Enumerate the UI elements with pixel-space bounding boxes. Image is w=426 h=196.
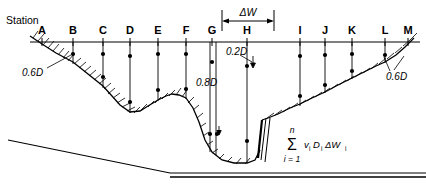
callout-leader-lines — [47, 55, 404, 71]
station-label-D: D — [126, 24, 134, 36]
ground-baseline — [8, 140, 426, 177]
dw-arrow-right — [267, 19, 274, 24]
meter-point-H-02D — [245, 64, 249, 68]
station-label-L: L — [382, 24, 389, 36]
meter-point-I-02D — [298, 54, 302, 58]
meter-point-C-02D — [101, 52, 105, 56]
formula-depth-subscript: i — [321, 145, 322, 152]
meter-point-K-02D — [350, 52, 354, 56]
station-label-K: K — [348, 24, 356, 36]
meter-point-E-08D — [156, 88, 160, 92]
meter-point-I-08D — [298, 94, 302, 98]
depth-label-08d: 0.8D — [196, 77, 217, 88]
dw-arrow-left — [222, 19, 229, 24]
station-label-C: C — [99, 24, 107, 36]
station-label-B: B — [69, 24, 77, 36]
meter-point-G-02D — [210, 60, 214, 64]
scour-bank-lines — [258, 118, 270, 162]
station-label-H: H — [243, 24, 251, 36]
meter-point-J-08D — [323, 83, 327, 87]
depth-label-left-06d: 0.6D — [22, 67, 43, 78]
meter-point-F-02D — [184, 52, 188, 56]
station-label-J: J — [322, 24, 328, 36]
meter-point-E-02D — [156, 52, 160, 56]
leader-right-06D-b — [394, 56, 404, 70]
bed-hachure-marks — [33, 31, 417, 164]
station-label-E: E — [154, 24, 161, 36]
formula-lower-limit: i = 1 — [284, 154, 301, 164]
meter-point-D-02D — [128, 54, 132, 58]
meter-point-C-08D — [101, 75, 105, 79]
stream-cross-section-figure: Station A B C D E F G H I J K L M ΔW 0.6… — [0, 0, 426, 196]
meter-point-J-02D — [323, 53, 327, 57]
leader-left-06D — [47, 55, 71, 68]
width-increment-label: ΔW — [239, 6, 258, 18]
meter-point-L-06D — [383, 53, 387, 57]
discharge-summation-formula: n Σ i = 1 v i D i ΔW i — [284, 125, 347, 164]
station-axis-label: Station — [6, 14, 39, 26]
depth-arrow-indicators — [217, 56, 256, 135]
station-label-F: F — [183, 24, 190, 36]
formula-width-term: ΔW — [324, 139, 341, 150]
station-label-A: A — [38, 24, 46, 36]
meter-point-K-08D — [350, 69, 354, 73]
formula-width-subscript: i — [345, 145, 346, 152]
depth-label-right-06d: 0.6D — [386, 71, 407, 82]
station-label-I: I — [298, 24, 301, 36]
station-label-G: G — [208, 24, 217, 36]
station-label-M: M — [403, 24, 412, 36]
formula-depth-term: D — [313, 139, 320, 150]
stream-bed-profile — [30, 36, 414, 163]
meter-point-H-08D — [245, 139, 249, 143]
velocity-measurement-points — [71, 52, 387, 143]
depth-label-02d: 0.2D — [226, 46, 247, 57]
formula-velocity-subscript: i — [309, 145, 310, 152]
formula-sigma-symbol: Σ — [287, 136, 297, 153]
meter-point-F-08D — [184, 87, 188, 91]
cross-section-drawing: Station A B C D E F G H I J K L M ΔW 0.6… — [0, 0, 426, 196]
formula-upper-limit: n — [290, 125, 295, 135]
